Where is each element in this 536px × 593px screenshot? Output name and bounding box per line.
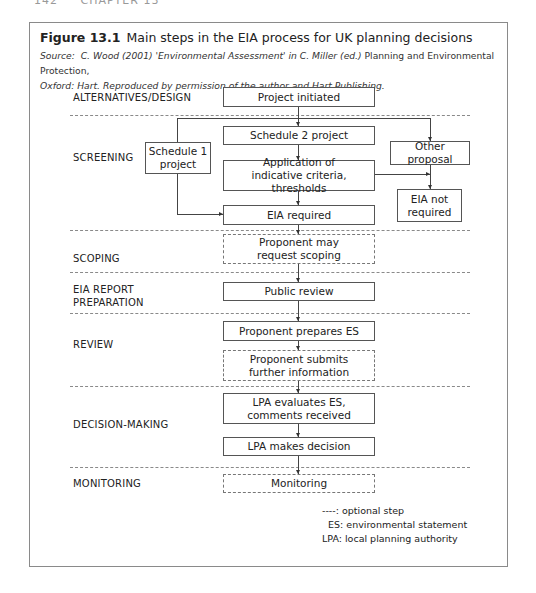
node-proponent-prepares-es: Proponent prepares ES — [223, 321, 375, 341]
node-label: request scoping — [257, 249, 341, 262]
source-citation: C. Wood (2001) 'Environmental Assessment… — [81, 50, 362, 61]
stage-scoping: SCOPING — [73, 252, 120, 266]
figure-title: Figure 13.1Main steps in the EIA process… — [40, 30, 473, 45]
node-label: Proponent may — [259, 236, 339, 249]
connector-line — [177, 118, 431, 119]
node-label: Other proposal — [391, 140, 469, 166]
connector-line — [177, 214, 223, 215]
legend-optional-step: ----: optional step — [322, 504, 467, 518]
legend: ----: optional step ES: environmental st… — [322, 504, 467, 546]
figure-label: Figure 13.1 — [40, 30, 121, 45]
node-other-proposal: Other proposal — [390, 141, 470, 165]
node-proponent-may-request-scoping: Proponent may request scoping — [223, 234, 375, 264]
stage-decision-making: DECISION-MAKING — [73, 418, 168, 432]
stage-separator — [70, 467, 470, 468]
node-label: EIA required — [267, 209, 331, 222]
node-project-initiated: Project initiated — [223, 87, 375, 107]
node-label: Monitoring — [271, 477, 327, 490]
stage-separator — [70, 272, 470, 273]
stage-separator — [70, 230, 470, 231]
node-label: Project initiated — [258, 91, 340, 104]
node-label: Public review — [264, 285, 333, 298]
stage-monitoring: MONITORING — [73, 477, 141, 491]
connector-line — [177, 173, 178, 215]
node-application-of-criteria: Application of indicative criteria, thre… — [223, 160, 375, 191]
stage-review: REVIEW — [73, 338, 113, 352]
source-prefix: Source: — [40, 50, 75, 61]
stage-alternatives-design: ALTERNATIVES/DESIGN — [73, 91, 191, 105]
running-head: 142 CHAPTER 13 — [34, 0, 177, 7]
node-eia-not-required: EIA not required — [397, 189, 462, 222]
connector-line — [374, 174, 430, 175]
node-label: indicative criteria, thresholds — [224, 169, 374, 195]
node-lpa-evaluates-es: LPA evaluates ES, comments received — [223, 393, 375, 424]
node-label: EIA not — [411, 193, 448, 206]
page-number: 142 — [34, 0, 58, 7]
node-label: Application of — [263, 156, 335, 169]
node-label: Proponent submits — [250, 353, 349, 366]
node-label: Schedule 1 — [149, 145, 207, 158]
figure-title-text: Main steps in the EIA process for UK pla… — [127, 30, 473, 45]
stage-eia-report-preparation: PREPARATION — [73, 296, 144, 310]
stage-eia-report: EIA REPORT — [73, 283, 134, 297]
legend-es: ES: environmental statement — [322, 518, 467, 532]
stage-separator — [70, 115, 470, 116]
node-label: further information — [249, 366, 349, 379]
node-schedule-1-project: Schedule 1 project — [145, 142, 211, 174]
node-proponent-submits-further-info: Proponent submits further information — [223, 350, 375, 381]
node-lpa-makes-decision: LPA makes decision — [223, 437, 375, 456]
stage-separator — [70, 386, 470, 387]
chapter-label: CHAPTER 13 — [81, 0, 160, 7]
legend-lpa: LPA: local planning authority — [322, 532, 467, 546]
node-eia-required: EIA required — [223, 205, 375, 225]
node-label: Schedule 2 project — [250, 129, 348, 142]
node-label: comments received — [247, 409, 351, 422]
node-label: LPA evaluates ES, — [252, 396, 345, 409]
connector-line — [177, 118, 178, 142]
node-label: Proponent prepares ES — [239, 325, 359, 338]
node-label: required — [408, 206, 452, 219]
node-monitoring: Monitoring — [223, 474, 375, 493]
node-label: LPA makes decision — [248, 440, 351, 453]
stage-separator — [70, 313, 470, 314]
node-public-review: Public review — [223, 282, 375, 301]
stage-screening: SCREENING — [73, 151, 133, 165]
node-schedule-2-project: Schedule 2 project — [223, 126, 375, 145]
node-label: project — [160, 158, 196, 171]
